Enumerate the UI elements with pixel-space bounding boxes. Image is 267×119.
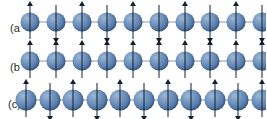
spin-arrow-up-icon [259,40,265,45]
spin-arrow-down-icon [141,116,147,119]
spin-arrow-down-icon [188,116,194,119]
spin-arrow-up-icon [212,79,218,84]
spin-arrow-shaft [73,83,74,117]
spin-arrow-up-icon [79,40,85,45]
spin-arrow-up-icon [233,40,239,45]
spin-chain-row-c: (c) [0,70,266,119]
spin-arrow-up-icon [23,79,29,84]
spin-arrow-up-icon [130,40,136,45]
spin-arrow-down-icon [94,116,100,119]
atom-sphere [253,52,267,71]
spin-arrow-up-icon [182,40,188,45]
spin-arrow-up-icon [182,1,188,6]
spin-chain-figure: (a(b(c) [0,0,266,119]
spin-arrow-up-icon [156,40,162,45]
spin-arrow-up-icon [70,79,76,84]
spin-arrow-shaft [214,83,215,117]
spin-arrow-up-icon [165,79,171,84]
spin-arrow-up-icon [79,1,85,6]
spin-arrow-shaft [238,83,239,117]
row-c-track [26,70,262,119]
spin-arrow-up-icon [259,79,265,84]
spin-arrow-up-icon [104,40,110,45]
atom-sphere [252,90,267,111]
spin-arrow-shaft [120,83,121,117]
spin-arrow-shaft [191,83,192,117]
spin-arrow-up-icon [27,1,33,6]
spin-arrow-shaft [49,83,50,117]
spin-arrow-up-icon [53,40,59,45]
spin-arrow-down-icon [47,116,53,119]
spin-arrow-down-icon [235,116,241,119]
atom-sphere [253,13,267,32]
spin-arrow-up-icon [117,79,123,84]
spin-arrow-shaft [96,83,97,117]
spin-arrow-shaft [144,83,145,117]
spin-arrow-shaft [167,83,168,117]
spin-arrow-shaft [26,83,27,117]
spin-arrow-up-icon [130,1,136,6]
spin-arrow-up-icon [27,40,33,45]
spin-arrow-shaft [262,83,263,117]
spin-arrow-up-icon [233,1,239,6]
spin-arrow-up-icon [207,40,213,45]
